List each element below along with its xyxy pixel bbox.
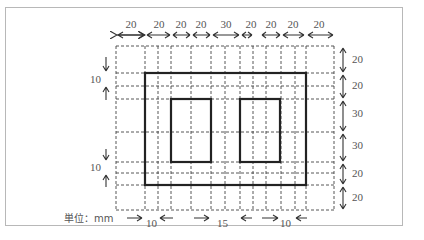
right-opening xyxy=(240,99,280,162)
bottom-dim-1: 10 xyxy=(146,217,158,229)
top-arrow-shapes xyxy=(118,32,333,38)
top-dim-2: 20 xyxy=(154,18,166,30)
top-dim-6: 20 xyxy=(246,18,258,30)
unit-label: 単位：mm xyxy=(64,212,113,224)
right-dim-3: 30 xyxy=(352,107,364,119)
dimension-drawing: 20 20 20 20 30 20 20 20 20 20 20 30 30 2… xyxy=(0,0,424,240)
top-dim-4: 20 xyxy=(196,18,208,30)
left-dimension-arrows xyxy=(103,57,109,187)
right-dim-2: 20 xyxy=(352,79,364,91)
top-dim-1: 20 xyxy=(126,18,138,30)
left-dim-2: 10 xyxy=(90,161,102,173)
top-dim-5: 30 xyxy=(221,18,233,30)
right-dimension-arrows xyxy=(340,48,346,209)
top-dim-3: 20 xyxy=(176,18,188,30)
bottom-dim-2: 15 xyxy=(217,217,229,229)
left-dim-1: 10 xyxy=(90,73,102,85)
top-dim-8: 20 xyxy=(288,18,300,30)
right-dim-5: 20 xyxy=(352,167,364,179)
outer-rectangle xyxy=(145,73,306,185)
right-dim-1: 20 xyxy=(352,53,364,65)
bottom-dim-3: 10 xyxy=(280,217,292,229)
top-dim-9: 20 xyxy=(314,18,326,30)
top-dim-7: 20 xyxy=(266,18,278,30)
right-dim-4: 30 xyxy=(352,139,364,151)
right-dim-6: 20 xyxy=(352,191,364,203)
